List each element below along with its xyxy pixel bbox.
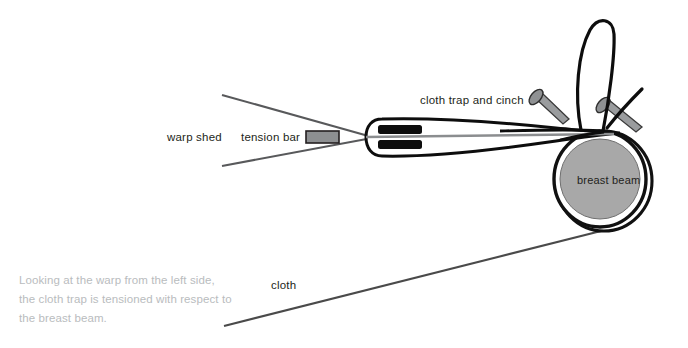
diagram-canvas: warp shed tension bar cloth trap and cin… <box>0 0 688 348</box>
label-cloth: cloth <box>271 279 296 291</box>
label-breast-beam: breast beam <box>577 174 640 186</box>
figure-caption: Looking at the warp from the left side, … <box>19 271 234 328</box>
cinch-cord-group <box>578 21 642 131</box>
cinch-cord-loop <box>578 21 615 131</box>
label-tension-bar: tension bar <box>241 131 300 143</box>
cloth-trap-bar-upper <box>378 125 422 134</box>
label-warp-shed: warp shed <box>167 131 222 143</box>
tension-bar-shape <box>306 131 339 143</box>
nail-left <box>526 87 569 124</box>
label-cloth-trap-and-cinch: cloth trap and cinch <box>420 94 524 106</box>
cloth-trap-bar-lower <box>378 140 422 149</box>
tension-bar-rect <box>306 131 339 143</box>
cloth-wrap-upper-strand <box>500 130 600 131</box>
